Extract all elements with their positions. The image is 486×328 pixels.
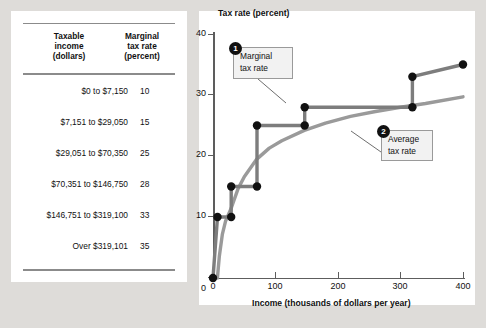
table-row: $0 to $7,150 10	[23, 86, 175, 102]
table-cell-bracket: Over $319,101	[73, 241, 128, 251]
y-axis-tick	[208, 277, 215, 278]
table-cell-rate: 15	[140, 117, 160, 127]
table-row: $29,051 to $70,350 25	[23, 148, 175, 164]
table-header-rule	[23, 73, 175, 75]
y-axis-title: Tax rate (percent)	[218, 8, 289, 18]
callout-1-line2: tax rate	[240, 63, 287, 75]
table-header-income: Taxable income (dollars)	[33, 31, 105, 61]
tax-bracket-table-panel: Taxable income (dollars) Marginal tax ra…	[11, 11, 187, 282]
table-header-rate: Marginal tax rate (percent)	[111, 31, 173, 61]
table-cell-rate: 25	[140, 148, 160, 158]
figure-root: Taxable income (dollars) Marginal tax ra…	[0, 0, 486, 328]
table-bottom-rule	[23, 269, 175, 271]
x-axis-title: Income (thousands of dollars per year)	[252, 298, 411, 308]
table-header-rate-line2: tax rate	[111, 41, 173, 51]
x-axis-tick	[400, 272, 401, 279]
table-row: $70,351 to $146,750 28	[23, 179, 175, 195]
table-cell-bracket: $7,151 to $29,050	[60, 117, 128, 127]
x-axis-tick	[463, 272, 464, 279]
y-axis-label: 10	[184, 210, 206, 220]
callout-marginal-tax-rate: Marginal tax rate	[233, 47, 293, 79]
table-top-rule	[23, 23, 175, 24]
table-cell-rate: 33	[140, 210, 160, 220]
x-axis-label: 200	[321, 281, 355, 291]
table-row: Over $319,101 35	[23, 241, 175, 257]
x-axis-tick	[275, 272, 276, 279]
table-row: $146,751 to $319,100 33	[23, 210, 175, 226]
y-axis-label: 40	[184, 28, 206, 38]
x-axis-label: 100	[258, 281, 292, 291]
x-axis-label: 300	[383, 281, 417, 291]
y-axis-tick	[208, 94, 215, 95]
y-axis-label: 20	[184, 149, 206, 159]
table-cell-bracket: $0 to $7,150	[81, 86, 128, 96]
y-axis-tick	[208, 155, 215, 156]
table-cell-rate: 28	[140, 179, 160, 189]
table-cell-bracket: $29,051 to $70,350	[56, 148, 128, 158]
table-cell-bracket: $70,351 to $146,750	[51, 179, 128, 189]
table-header-rate-line1: Marginal	[111, 31, 173, 41]
x-axis-label: 0	[196, 281, 230, 291]
callout-2-badge: 2	[377, 125, 390, 138]
y-axis-label: 30	[184, 88, 206, 98]
table-header-rate-line3: (percent)	[111, 51, 173, 61]
table-header-income-line1: Taxable	[33, 31, 105, 41]
x-axis-tick	[338, 272, 339, 279]
table-cell-bracket: $146,751 to $319,100	[46, 210, 128, 220]
y-axis-tick	[208, 34, 215, 35]
table-cell-rate: 10	[140, 86, 160, 96]
table-header-income-line2: income	[33, 41, 105, 51]
x-axis-label: 400	[446, 281, 480, 291]
callout-1-line1: Marginal	[240, 51, 287, 63]
table-cell-rate: 35	[140, 241, 160, 251]
callout-2-line2: tax rate	[388, 146, 427, 158]
table-header-income-line3: (dollars)	[33, 51, 105, 61]
callout-2-line1: Average	[388, 134, 427, 146]
table-row: $7,151 to $29,050 15	[23, 117, 175, 133]
callout-1-badge: 1	[229, 42, 242, 55]
y-axis-tick	[208, 216, 215, 217]
